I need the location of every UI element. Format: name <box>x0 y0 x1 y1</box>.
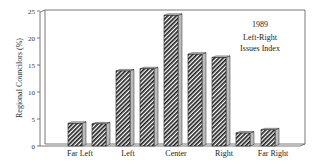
x-tick-label: Center <box>165 149 187 158</box>
y-axis: 0510152025 <box>28 8 40 151</box>
bar <box>236 132 254 146</box>
y-tick-label: 25 <box>28 8 36 16</box>
x-axis-labels: Far LeftLeftCenterRightFar Right <box>67 149 289 158</box>
chart-title: 1989 <box>252 20 268 29</box>
bar <box>188 53 206 146</box>
bar <box>212 56 230 146</box>
y-tick-label: 10 <box>28 89 36 97</box>
x-tick-label: Far Left <box>67 149 94 158</box>
y-tick-label: 15 <box>28 62 36 70</box>
y-tick-label: 0 <box>32 143 36 151</box>
bar <box>92 122 110 146</box>
bar <box>164 14 182 146</box>
x-tick-label: Right <box>215 149 234 158</box>
x-tick-label: Far Right <box>258 149 289 158</box>
bar <box>68 122 86 146</box>
x-tick-label: Left <box>121 149 135 158</box>
annotation-line-2: Issues Index <box>240 44 280 53</box>
annotation-line-1: Left-Right <box>243 33 278 42</box>
bar <box>261 128 279 146</box>
bar <box>140 67 158 146</box>
y-axis-label: Regional Councilors (%) <box>15 38 24 118</box>
y-tick-label: 5 <box>32 116 36 124</box>
bar-chart: 0510152025 Far LeftLeftCenterRightFar Ri… <box>0 0 319 167</box>
y-tick-label: 20 <box>28 35 36 43</box>
bar <box>116 69 134 146</box>
